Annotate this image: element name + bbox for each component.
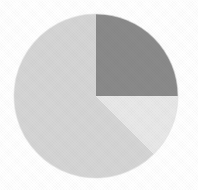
pie-chart-figure [0,0,198,190]
pie-chart-svg [0,0,198,190]
